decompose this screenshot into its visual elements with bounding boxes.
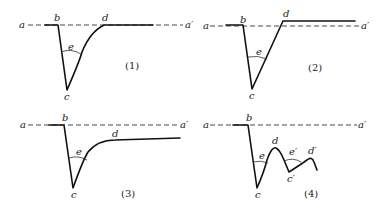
label-c: c	[71, 189, 77, 200]
label-d: d	[112, 128, 118, 139]
label-a-prime: a′	[180, 119, 189, 130]
panel-2: a a′ b c d e (2)	[203, 8, 370, 101]
label-a: a	[19, 19, 25, 30]
label-b: b	[246, 112, 252, 123]
angle-arc-prime	[284, 159, 301, 162]
label-b: b	[54, 12, 60, 23]
label-b: b	[240, 14, 246, 25]
label-c: c	[64, 91, 70, 102]
trace-curve	[226, 21, 355, 89]
label-a-prime: a′	[361, 20, 370, 31]
label-e: e	[256, 46, 262, 57]
panel-1: a a′ b c d e (1)	[19, 12, 194, 102]
label-c: c	[249, 90, 255, 101]
label-d: d	[272, 135, 278, 146]
label-a-prime: a′	[185, 19, 194, 30]
panel-4: a a′ b c d e c′ d′ e′ (4)	[203, 112, 367, 200]
label-e-prime: e′	[289, 146, 298, 157]
label-a-prime: a′	[358, 119, 367, 130]
label-b: b	[62, 112, 68, 123]
label-d: d	[102, 12, 108, 23]
diagram-canvas: a a′ b c d e (1) a a′ b c d e (2) a a′ b…	[0, 0, 385, 210]
label-a: a	[203, 119, 209, 130]
panel-3: a a′ b c d e (3)	[20, 112, 189, 200]
label-e: e	[68, 41, 74, 52]
label-d: d	[283, 8, 289, 19]
label-a: a	[20, 119, 26, 130]
panel-caption: (4)	[304, 188, 318, 199]
label-e: e	[259, 150, 265, 161]
label-e: e	[76, 146, 82, 157]
panel-caption: (3)	[121, 188, 135, 199]
label-d-prime: d′	[308, 145, 317, 156]
panel-caption: (2)	[308, 62, 322, 73]
label-a: a	[203, 20, 209, 31]
trace-curve	[45, 25, 153, 90]
label-c-prime: c′	[287, 173, 296, 184]
label-c: c	[255, 189, 261, 200]
panel-caption: (1)	[125, 60, 139, 71]
